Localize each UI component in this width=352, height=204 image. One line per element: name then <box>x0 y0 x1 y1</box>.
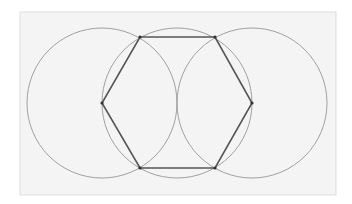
vertex-dot <box>138 35 141 38</box>
vertex-dot <box>213 166 216 169</box>
vertex-dot <box>250 101 253 104</box>
vertex-dot <box>100 101 103 104</box>
vertex-dot <box>213 35 216 38</box>
vertex-dot <box>138 166 141 169</box>
hexagon-diagram <box>0 0 352 204</box>
